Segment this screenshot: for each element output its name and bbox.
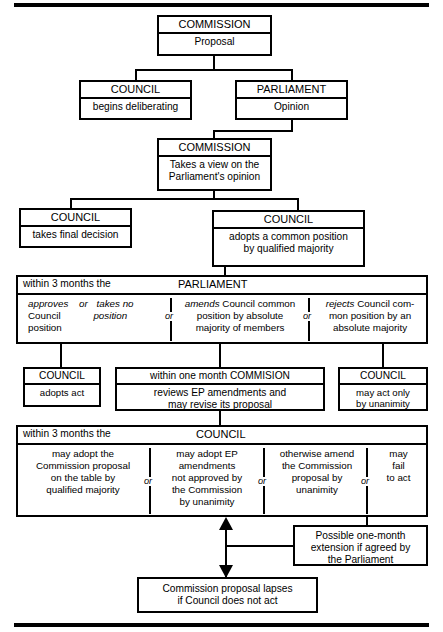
connector-line (60, 344, 62, 368)
stage-options: may adopt the Commission proposal on the… (18, 445, 426, 517)
node-proposal-lapses: Commission proposal lapses if Council do… (137, 577, 318, 613)
stage-council: within 3 months the COUNCIL may adopt th… (16, 425, 428, 517)
or-label: or (302, 312, 312, 321)
stage-options: approves or takes no Council position po… (18, 295, 426, 344)
node-header: COMMISSION (159, 17, 270, 34)
node-body: begins deliberating (81, 99, 190, 116)
option-line: may adopt EP (154, 448, 260, 460)
stage-title: COUNCIL (196, 428, 246, 440)
option-line: rejects Council com- (314, 298, 426, 310)
option-word: takes no (97, 298, 134, 309)
option-line: the Commission (268, 460, 366, 472)
connector-line (135, 69, 293, 71)
option-line: proposal by (268, 472, 366, 484)
arrow-up-icon (219, 517, 233, 530)
option-council-fail-to-act: may fail to act (371, 445, 426, 517)
node-body: Commission proposal lapses if Council do… (139, 579, 316, 610)
node-body: Takes a view on the Parliament's opinion (159, 157, 270, 186)
option-parliament-rejects: rejects Council com- mon position by an … (314, 295, 426, 344)
option-line: unanimity (268, 484, 366, 496)
option-word: or (79, 298, 88, 309)
node-commission-review: within one month COMMISION reviews EP am… (115, 367, 325, 411)
node-body: Possible one-month extension if agreed b… (295, 527, 426, 568)
connector-line (219, 411, 221, 426)
node-header: COMMISSION (159, 140, 270, 157)
bottom-rule (14, 623, 429, 627)
flowchart-canvas: COMMISSION Proposal COUNCIL begins delib… (0, 0, 443, 632)
node-commission-proposal: COMMISSION Proposal (157, 15, 272, 56)
option-line: qualified majority (20, 484, 146, 496)
stage-header: within 3 months the COUNCIL (18, 427, 426, 445)
node-body-line: by unanimity (343, 398, 423, 409)
top-rule (14, 3, 429, 7)
option-word: Council com- (354, 298, 414, 309)
node-body-line: Takes a view on the (162, 159, 267, 171)
connector-line (219, 344, 221, 368)
option-line: absolute majority (314, 322, 426, 334)
option-word: Council common (220, 298, 296, 309)
node-body-line: adopts a common position (217, 231, 360, 243)
option-line: position (28, 322, 170, 334)
node-body-line: reviews EP amendments and (120, 387, 320, 399)
option-line: Commission proposal (20, 460, 146, 472)
node-header: COUNCIL (25, 369, 99, 385)
node-body: may act only by unanimity (340, 385, 426, 412)
stage-label: within 3 months the (23, 278, 111, 289)
option-parliament-approves: approves or takes no Council position po… (20, 295, 170, 344)
option-line: Council position (28, 310, 170, 322)
node-body: adopts act (25, 385, 99, 401)
stage-header: within 3 months the PARLIAMENT (18, 277, 426, 295)
node-council-final-decision: COUNCIL takes final decision (19, 208, 132, 248)
node-body-line: the Parliament (298, 554, 423, 566)
option-line: majority of members (174, 322, 306, 334)
node-header: PARLIAMENT (237, 82, 346, 99)
or-label: or (360, 477, 370, 486)
option-line: fail (371, 460, 426, 472)
option-council-amend-commission-proposal: otherwise amend the Commission proposal … (268, 445, 366, 517)
connector-line (213, 56, 215, 69)
option-line: position by absolute (174, 310, 306, 322)
option-line: amends Council common (174, 298, 306, 310)
node-commission-view: COMMISSION Takes a view on the Parliamen… (157, 138, 272, 191)
node-body-line: extension if agreed by (298, 542, 423, 554)
node-parliament-opinion: PARLIAMENT Opinion (235, 80, 348, 120)
option-line: to act (371, 472, 426, 484)
node-header: COUNCIL (214, 212, 363, 229)
option-word: approves (28, 298, 68, 309)
or-label: or (164, 312, 174, 321)
stage-label: within 3 months the (23, 428, 111, 439)
option-council-adopt-ep-amendments: may adopt EP amendments not approved by … (154, 445, 260, 517)
node-body: reviews EP amendments and may revise its… (117, 385, 323, 414)
connector-line (213, 130, 293, 132)
node-body-line: Commission proposal lapses (142, 583, 313, 595)
node-body-line: may act only (343, 387, 423, 398)
option-word: Council (28, 310, 61, 321)
option-line: mon position by an (314, 310, 426, 322)
node-body-line: if Council does not act (142, 595, 313, 607)
stage-title: PARLIAMENT (178, 278, 247, 290)
option-line: approves or takes no (28, 298, 170, 310)
option-word: position (93, 310, 127, 321)
node-council-deliberating: COUNCIL begins deliberating (79, 80, 192, 120)
option-line: may (371, 448, 426, 460)
node-council-unanimity: COUNCIL may act only by unanimity (338, 367, 428, 411)
node-header: COUNCIL (21, 210, 130, 227)
node-body: Opinion (237, 99, 346, 116)
node-council-common-position: COUNCIL adopts a common position by qual… (212, 210, 365, 267)
node-header: within one month COMMISION (117, 369, 323, 385)
node-body: Proposal (159, 34, 270, 51)
option-line: not approved by (154, 472, 260, 484)
connector-line (382, 344, 384, 368)
connector-line (70, 198, 299, 200)
node-body-line: Parliament's opinion (162, 171, 267, 183)
option-line: the Commission (154, 484, 260, 496)
option-council-adopt-commission-proposal: may adopt the Commission proposal on the… (20, 445, 146, 517)
or-label: or (257, 477, 267, 486)
option-word: amends (185, 298, 220, 309)
connector-line (225, 545, 295, 547)
option-word: rejects (326, 298, 355, 309)
node-header: COUNCIL (340, 369, 426, 385)
option-parliament-amends: amends Council common position by absolu… (174, 295, 306, 344)
option-line: on the table by (20, 472, 146, 484)
node-extension: Possible one-month extension if agreed b… (293, 525, 428, 566)
